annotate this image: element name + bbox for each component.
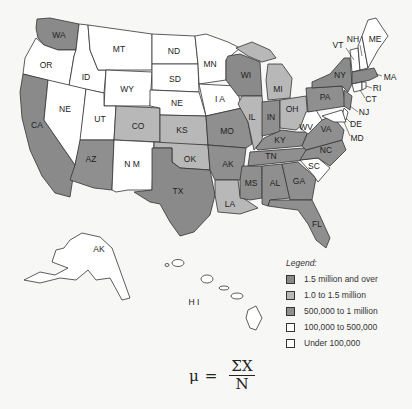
label-me: ME	[369, 34, 382, 44]
state-hi	[165, 260, 262, 331]
state-ak	[24, 233, 130, 300]
label-wv: WV	[299, 122, 313, 132]
label-ia: I A	[215, 94, 225, 104]
label-ne: NE	[171, 98, 183, 108]
legend-label: 1.5 million and over	[304, 274, 378, 284]
legend-item: 500,000 to 1 million	[286, 303, 378, 319]
label-ca: CA	[31, 120, 43, 130]
label-nc: NC	[320, 145, 332, 155]
label-ri: RI	[373, 83, 382, 93]
formula-fraction: ΣX N	[229, 358, 254, 393]
mean-formula: μ = ΣX N	[189, 358, 255, 393]
label-co: CO	[132, 121, 145, 131]
legend-label: 100,000 to 500,000	[304, 322, 377, 332]
label-nm: N M	[124, 159, 140, 169]
label-mn: MN	[203, 59, 216, 69]
label-id: ID	[82, 72, 91, 82]
label-tx: TX	[173, 186, 184, 196]
label-il: IL	[248, 112, 255, 122]
label-ms: MS	[245, 178, 258, 188]
label-in: IN	[267, 112, 276, 122]
label-la: LA	[225, 199, 236, 209]
label-ks: KS	[176, 125, 188, 135]
legend-title: Legend:	[286, 258, 378, 268]
legend-item: Under 100,000	[286, 335, 378, 351]
state-ny	[312, 58, 352, 92]
state-ri	[362, 82, 366, 90]
legend-label: 1.0 to 1.5 million	[304, 290, 366, 300]
label-va: VA	[321, 124, 332, 134]
label-ak: AK	[93, 244, 105, 254]
legend-item: 1.5 million and over	[286, 271, 378, 287]
label-nv: NE	[59, 104, 71, 114]
legend-label: 500,000 to 1 million	[304, 306, 378, 316]
leader-ct	[360, 90, 365, 98]
state-mi	[266, 64, 292, 100]
formula-denominator: N	[235, 376, 248, 393]
label-ar: AK	[222, 159, 234, 169]
legend-label: Under 100,000	[304, 338, 360, 348]
label-vt: VT	[333, 40, 344, 50]
leader-ri	[366, 86, 372, 88]
label-nh: NH	[347, 34, 359, 44]
label-az: AZ	[86, 154, 97, 164]
formula-mu: μ	[189, 367, 199, 385]
legend-swatch	[286, 307, 295, 316]
label-fl: FL	[312, 219, 322, 229]
formula-equals: =	[205, 367, 218, 385]
state-nj	[344, 90, 352, 110]
label-wi: WI	[241, 70, 251, 80]
label-al: AL	[270, 178, 281, 188]
legend: Legend: 1.5 million and over 1.0 to 1.5 …	[286, 258, 378, 351]
label-pa: PA	[320, 92, 331, 102]
label-wy: WY	[120, 84, 134, 94]
label-sd: SD	[169, 74, 181, 84]
legend-swatch	[286, 275, 295, 284]
label-ma: MA	[384, 72, 397, 82]
label-mo: MO	[220, 126, 234, 136]
legend-swatch	[286, 323, 295, 332]
label-ut: UT	[94, 114, 105, 124]
leader-nj	[350, 106, 358, 112]
formula-numerator: ΣX	[229, 358, 254, 376]
legend-item: 1.0 to 1.5 million	[286, 287, 378, 303]
label-ky: KY	[274, 135, 286, 145]
leader-md	[344, 122, 350, 136]
label-ct: CT	[365, 94, 376, 104]
label-de: DE	[350, 119, 362, 129]
label-ny: NY	[334, 70, 346, 80]
legend-item: 100,000 to 500,000	[286, 319, 378, 335]
label-oh: OH	[286, 104, 299, 114]
label-tn: TN	[265, 151, 276, 161]
label-mt: MT	[113, 44, 125, 54]
label-ga: GA	[293, 176, 306, 186]
label-or: OR	[40, 60, 53, 70]
label-hi: H I	[189, 297, 200, 307]
label-md: MD	[350, 133, 363, 143]
legend-swatch	[286, 291, 295, 300]
legend-swatch	[286, 339, 295, 348]
label-nj: NJ	[359, 107, 369, 117]
label-sc: SC	[308, 161, 320, 171]
label-ok: OK	[184, 154, 197, 164]
label-mi: MI	[273, 84, 282, 94]
label-wa: WA	[52, 30, 66, 40]
label-nd: ND	[168, 46, 180, 56]
